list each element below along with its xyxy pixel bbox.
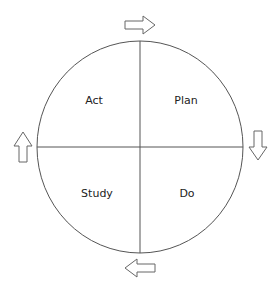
- quadrant-label-study: Study: [81, 187, 113, 200]
- arrow-up-icon: [14, 132, 32, 162]
- arrow-right-icon: [125, 16, 155, 34]
- arrow-down-icon: [249, 131, 267, 160]
- arrow-left-icon: [125, 259, 155, 277]
- pdsa-cycle-diagram: [0, 0, 278, 287]
- quadrant-label-do: Do: [179, 187, 194, 200]
- quadrant-label-plan: Plan: [174, 94, 197, 107]
- quadrant-label-act: Act: [85, 94, 103, 107]
